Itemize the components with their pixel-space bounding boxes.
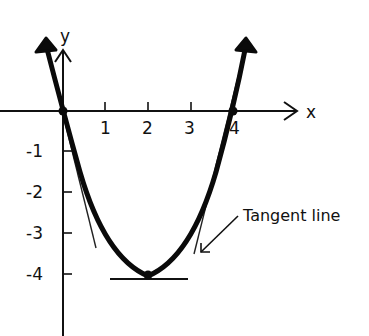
y-tick-label-2: -2 bbox=[26, 182, 43, 202]
point-vertex bbox=[144, 271, 153, 280]
x-tick-label-3: 3 bbox=[184, 118, 195, 138]
x-tick-label-2: 2 bbox=[142, 118, 153, 138]
curve-arrowhead-right bbox=[236, 38, 256, 52]
y-tick-label-4: -4 bbox=[26, 264, 43, 284]
parabola-tangent-chart: x y 1 2 3 4 -1 -2 -3 -4 Tangent line bbox=[0, 0, 369, 336]
point-origin bbox=[59, 107, 68, 116]
curve-arrowhead-left bbox=[36, 38, 56, 52]
x-axis-label: x bbox=[306, 102, 316, 122]
annotation-label: Tangent line bbox=[242, 206, 340, 225]
parabola-curve bbox=[46, 45, 246, 276]
y-tick-label-3: -3 bbox=[26, 223, 43, 243]
y-tick-label-1: -1 bbox=[26, 141, 43, 161]
tangent-line-annotation: Tangent line bbox=[201, 206, 340, 252]
x-tick-label-1: 1 bbox=[100, 118, 111, 138]
y-axis-label: y bbox=[60, 26, 70, 46]
point-x4 bbox=[229, 107, 238, 116]
